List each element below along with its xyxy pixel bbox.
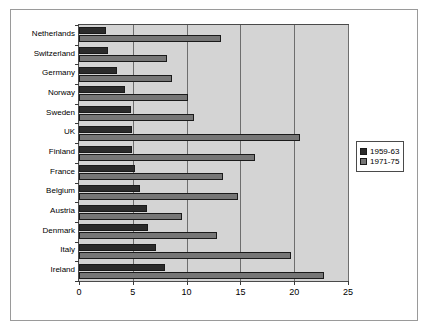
bar-switzerland-1971-75 [79,55,167,62]
legend-swatch-icon [360,148,367,155]
category-tick [75,123,79,124]
category-label-germany: Germany [42,68,75,77]
bar-germany-1959-63 [79,67,117,74]
bar-ireland-1971-75 [79,272,324,279]
value-tick [348,281,349,285]
bar-finland-1971-75 [79,154,255,161]
bar-uk-1971-75 [79,134,300,141]
legend-label: 1971-75 [370,157,399,166]
category-tick [75,242,79,243]
category-tick [75,183,79,184]
chart-legend: 1959-631971-75 [356,141,404,172]
category-label-norway: Norway [48,88,75,97]
bar-ireland-1959-63 [79,264,165,271]
category-tick [75,163,79,164]
value-tick [187,281,188,285]
category-tick [75,222,79,223]
bar-austria-1971-75 [79,213,182,220]
value-tick-label-15: 15 [227,287,253,297]
value-tick-label-25: 25 [335,287,361,297]
category-label-belgium: Belgium [46,186,75,195]
category-tick [75,84,79,85]
bar-italy-1959-63 [79,244,156,251]
category-label-austria: Austria [50,206,75,215]
category-tick [75,45,79,46]
category-tick [75,64,79,65]
gridline [294,25,295,281]
bar-finland-1959-63 [79,146,132,153]
category-tick [75,25,79,26]
bar-belgium-1959-63 [79,185,140,192]
value-tick-label-10: 10 [174,287,200,297]
category-label-netherlands: Netherlands [32,29,75,38]
category-label-switzerland: Switzerland [34,49,75,58]
bar-belgium-1971-75 [79,193,238,200]
legend-item-1959-63: 1959-63 [360,147,399,156]
bar-uk-1959-63 [79,126,132,133]
bar-sweden-1959-63 [79,106,131,113]
category-label-uk: UK [64,127,75,136]
bar-norway-1959-63 [79,86,125,93]
category-label-finland: Finland [49,147,75,156]
category-tick [75,104,79,105]
legend-swatch-icon [360,158,367,165]
category-label-italy: Italy [60,245,75,254]
bar-germany-1971-75 [79,75,172,82]
category-label-denmark: Denmark [43,226,75,235]
category-label-france: France [50,167,75,176]
category-tick [75,143,79,144]
value-tick [133,281,134,285]
value-tick [294,281,295,285]
bar-netherlands-1959-63 [79,27,106,34]
category-tick [75,261,79,262]
legend-item-1971-75: 1971-75 [360,157,399,166]
bar-denmark-1971-75 [79,232,217,239]
bar-france-1971-75 [79,173,223,180]
bar-sweden-1971-75 [79,114,194,121]
bar-italy-1971-75 [79,252,291,259]
bar-denmark-1959-63 [79,224,148,231]
value-tick [240,281,241,285]
bar-switzerland-1959-63 [79,47,108,54]
bar-france-1959-63 [79,165,135,172]
bar-norway-1971-75 [79,94,188,101]
value-tick-label-5: 5 [120,287,146,297]
legend-label: 1959-63 [370,147,399,156]
gridline [348,25,349,281]
category-tick [75,202,79,203]
value-tick [79,281,80,285]
bar-austria-1959-63 [79,205,147,212]
value-tick-label-0: 0 [66,287,92,297]
plot-area [78,24,349,282]
chart-figure: NetherlandsSwitzerlandGermanyNorwaySwede… [10,9,418,321]
category-label-ireland: Ireland [51,265,75,274]
value-tick-label-20: 20 [281,287,307,297]
bar-netherlands-1971-75 [79,35,221,42]
category-label-sweden: Sweden [46,108,75,117]
